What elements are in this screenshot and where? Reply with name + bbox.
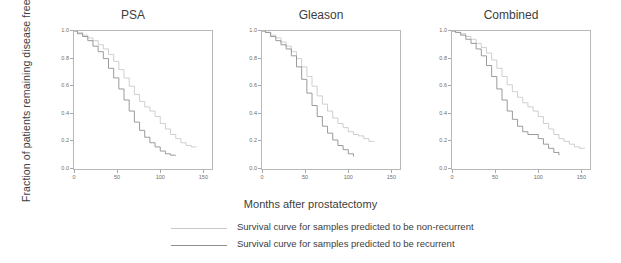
x-tick-mark [538,170,539,173]
survival-curve-non-recurrent [262,31,374,141]
y-tick-label: 0.0 [241,165,257,171]
panel-title: Combined [423,8,599,22]
x-tick-mark [203,170,204,173]
y-tick-mark [258,140,261,141]
legend-label: Survival curve for samples predicted to … [237,238,455,249]
legend-item-recurrent: Survival curve for samples predicted to … [0,237,621,254]
x-tick-label: 50 [109,174,125,180]
panel-gleason: Gleason p=0.0095472 0.00.20.40.60.81.005… [233,8,409,190]
legend: Survival curve for samples predicted to … [0,220,621,254]
y-tick-mark [70,58,73,59]
panel-title: Gleason [233,8,409,22]
y-tick-label: 0.6 [53,82,69,88]
y-tick-mark [448,85,451,86]
x-tick-label: 0 [254,174,270,180]
y-tick-label: 0.8 [431,55,447,61]
y-tick-label: 0.8 [53,55,69,61]
legend-swatch-recurrent [171,245,227,246]
x-tick-mark [117,170,118,173]
y-axis-label: Fraction of patients remaining disease f… [20,2,32,202]
x-tick-label: 150 [383,174,399,180]
x-tick-mark [305,170,306,173]
x-tick-label: 50 [297,174,313,180]
y-tick-label: 0.8 [241,55,257,61]
survival-curve-recurrent [74,31,176,155]
survival-figure: Fraction of patients remaining disease f… [0,0,621,263]
x-tick-label: 100 [340,174,356,180]
legend-swatch-non-recurrent [171,228,227,229]
y-tick-mark [70,113,73,114]
y-tick-label: 1.0 [431,27,447,33]
x-tick-mark [262,170,263,173]
panel-combined: Combined p=0.0191418 0.00.20.40.60.81.00… [423,8,599,190]
y-tick-label: 0.2 [53,137,69,143]
y-tick-label: 1.0 [53,27,69,33]
y-tick-mark [448,58,451,59]
y-tick-label: 0.2 [241,137,257,143]
x-tick-label: 150 [573,174,589,180]
plot-area-combined [451,30,591,170]
x-tick-mark [581,170,582,173]
x-tick-mark [452,170,453,173]
y-tick-label: 0.2 [431,137,447,143]
y-tick-mark [448,30,451,31]
y-tick-mark [258,30,261,31]
panel-title: PSA [45,8,221,22]
y-tick-mark [70,30,73,31]
legend-item-non-recurrent: Survival curve for samples predicted to … [0,220,621,237]
y-tick-mark [258,168,261,169]
survival-curve-non-recurrent [452,31,585,148]
y-tick-label: 0.0 [53,165,69,171]
y-tick-label: 0.6 [241,82,257,88]
y-tick-mark [448,140,451,141]
legend-label: Survival curve for samples predicted to … [237,221,474,232]
x-tick-label: 100 [152,174,168,180]
y-tick-label: 0.4 [241,110,257,116]
x-tick-mark [74,170,75,173]
y-tick-mark [448,113,451,114]
y-tick-mark [258,113,261,114]
survival-curves-combined [452,31,590,169]
survival-curve-recurrent [452,31,559,155]
x-axis-label: Months after prostatectomy [0,198,621,210]
y-tick-mark [258,85,261,86]
y-tick-mark [258,58,261,59]
y-tick-mark [70,85,73,86]
x-tick-label: 0 [66,174,82,180]
plot-area-psa [73,30,213,170]
x-tick-label: 50 [487,174,503,180]
y-tick-mark [70,140,73,141]
y-tick-mark [448,168,451,169]
x-tick-label: 150 [195,174,211,180]
plot-area-gleason [261,30,401,170]
y-tick-mark [70,168,73,169]
x-tick-label: 0 [444,174,460,180]
x-tick-mark [348,170,349,173]
y-tick-label: 0.6 [431,82,447,88]
y-tick-label: 0.4 [53,110,69,116]
x-tick-mark [391,170,392,173]
y-tick-label: 1.0 [241,27,257,33]
y-tick-label: 0.4 [431,110,447,116]
survival-curve-non-recurrent [74,31,196,147]
x-tick-mark [495,170,496,173]
survival-curves-psa [74,31,212,169]
x-tick-label: 100 [530,174,546,180]
y-tick-label: 0.0 [431,165,447,171]
x-tick-mark [160,170,161,173]
survival-curve-recurrent [262,31,353,157]
survival-curves-gleason [262,31,400,169]
panel-psa: PSA p=0.0065937 0.00.20.40.60.81.0050100… [45,8,221,190]
